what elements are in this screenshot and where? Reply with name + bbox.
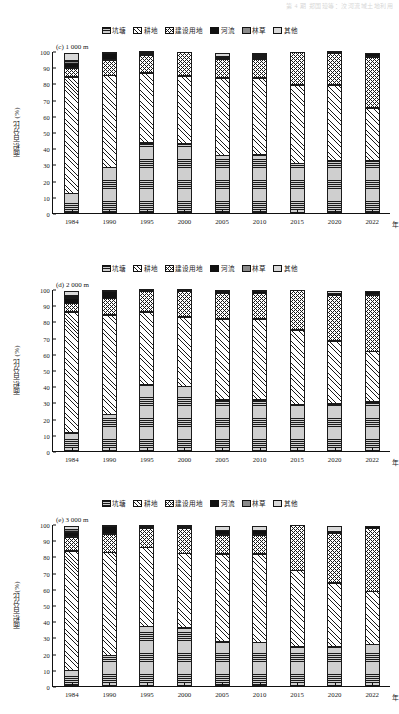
bar-segment-pond [177, 628, 192, 686]
x-tick-mark [222, 683, 223, 686]
chart-legend: 坑塘耕地建设用地河流林草其他 [0, 265, 399, 272]
bar-2005 [215, 524, 230, 686]
bar-segment-build [177, 528, 192, 554]
legend-item-other: 其他 [273, 265, 298, 272]
legend-label-crop: 耕地 [144, 27, 158, 34]
y-tick-mark [53, 541, 56, 542]
bar-2022 [365, 289, 380, 451]
bar-segment-build [102, 60, 117, 76]
legend-label-build: 建设用地 [175, 265, 203, 272]
bar-segment-build [290, 52, 305, 85]
y-tick-mark [53, 435, 56, 436]
bar-1995 [139, 524, 154, 686]
x-tick-mark [184, 210, 185, 213]
x-tick-mark [72, 448, 73, 451]
x-tick-mark [260, 448, 261, 451]
y-tick-label: 60 [43, 113, 53, 120]
legend-item-forest: 林草 [242, 27, 267, 34]
legend-item-river: 河流 [210, 27, 235, 34]
x-tick-mark [109, 210, 110, 213]
bar-segment-crop [365, 108, 380, 161]
x-tick-mark [147, 683, 148, 686]
bar-segment-build [139, 291, 154, 312]
y-tick-label: 40 [43, 619, 53, 626]
y-tick-label: 40 [43, 384, 53, 391]
x-axis-unit: 年 [392, 692, 399, 702]
y-tick-mark [53, 557, 56, 558]
legend-swatch-forest [242, 500, 251, 507]
panel-label: (e) 3 000 m [56, 516, 88, 524]
bar-2015 [290, 524, 305, 686]
x-tick-label: 2022 [365, 456, 379, 463]
bar-segment-build [365, 57, 380, 108]
bar-segment-build [215, 59, 230, 78]
y-tick-mark [53, 338, 56, 339]
legend-item-pond: 坑塘 [102, 500, 127, 507]
y-tick-mark [53, 149, 56, 150]
y-axis-label: 面积百分比 (%) [12, 312, 22, 429]
bar-segment-pond [290, 647, 305, 687]
legend-swatch-crop [133, 265, 142, 272]
bar-2010 [252, 289, 267, 451]
y-tick-label: 70 [43, 335, 53, 342]
bar-segment-crop [102, 315, 117, 415]
y-tick-mark [53, 622, 56, 623]
x-tick-label: 2020 [328, 456, 342, 463]
bar-segment-build [327, 533, 342, 583]
bar-segment-pond [290, 163, 305, 213]
legend-label-pond: 坑塘 [112, 27, 126, 34]
legend-item-river: 河流 [210, 265, 235, 272]
bar-segment-crop [365, 351, 380, 402]
legend-item-build: 建设用地 [165, 27, 204, 34]
x-tick-label: 2022 [365, 218, 379, 225]
plot-area: 0102030405060708090100198419901995200020… [52, 52, 390, 214]
bar-1984 [64, 289, 79, 451]
y-tick-label: 80 [43, 319, 53, 326]
y-tick-label: 50 [43, 368, 53, 375]
chart-legend: 坑塘耕地建设用地河流林草其他 [0, 27, 399, 34]
bar-segment-crop [177, 76, 192, 144]
bar-segment-build [139, 55, 154, 74]
y-tick-label: 60 [43, 586, 53, 593]
legend-label-build: 建设用地 [175, 500, 203, 507]
y-tick-mark [53, 606, 56, 607]
bar-segment-crop [215, 554, 230, 642]
x-tick-label: 2000 [178, 218, 192, 225]
y-axis-label: 面积百分比 (%) [12, 74, 22, 191]
bar-segment-pond [290, 405, 305, 452]
x-tick-label: 1990 [103, 456, 117, 463]
bar-1990 [102, 289, 117, 451]
y-tick-mark [53, 371, 56, 372]
x-tick-mark [297, 448, 298, 451]
x-tick-label: 1995 [140, 218, 154, 225]
x-tick-label: 2005 [215, 218, 229, 225]
y-axis-label: 面积百分比(%) [12, 547, 22, 664]
bar-segment-pond [365, 402, 380, 451]
bar-segment-crop [327, 341, 342, 405]
y-tick-mark [53, 306, 56, 307]
bar-segment-build [252, 535, 267, 554]
legend-swatch-other [273, 265, 282, 272]
x-tick-label: 2020 [328, 691, 342, 698]
x-tick-label: 2005 [215, 691, 229, 698]
x-tick-label: 2015 [290, 218, 304, 225]
y-tick-mark [53, 100, 56, 101]
legend-label-forest: 林草 [252, 265, 266, 272]
x-tick-label: 2000 [178, 456, 192, 463]
y-tick-mark [53, 452, 56, 453]
legend-label-other: 其他 [284, 500, 298, 507]
y-tick-mark [53, 687, 56, 688]
bar-segment-crop [215, 78, 230, 156]
x-tick-mark [147, 448, 148, 451]
bar-segment-crop [177, 553, 192, 628]
legend-item-crop: 耕地 [133, 27, 158, 34]
x-tick-label: 1984 [65, 456, 79, 463]
bar-segment-crop [139, 547, 154, 626]
y-tick-mark [53, 525, 56, 526]
y-tick-mark [53, 638, 56, 639]
bar-2005 [215, 51, 230, 213]
bar-segment-crop [290, 330, 305, 406]
legend-swatch-other [273, 27, 282, 34]
legend-swatch-river [210, 27, 219, 34]
bar-segment-pond [102, 655, 117, 686]
